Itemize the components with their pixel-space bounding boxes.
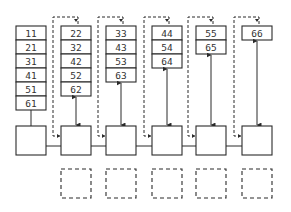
arrowhead-icon (148, 134, 151, 138)
cell-value: 65 (205, 42, 216, 53)
cell-value: 44 (161, 28, 173, 39)
processing-element-box (16, 126, 46, 155)
cell-value: 11 (25, 28, 37, 39)
cell-value: 61 (25, 98, 37, 109)
processing-element-box (152, 126, 182, 155)
dashed-placeholder-box (242, 169, 272, 198)
arrowhead-icon (57, 134, 60, 138)
processing-element-box (106, 126, 136, 155)
arrowhead-icon (238, 134, 241, 138)
cell-value: 55 (205, 28, 216, 39)
processing-element-box (61, 126, 91, 155)
dashed-placeholder-box (61, 169, 91, 198)
column-stack-6: 66 (242, 26, 272, 40)
arrowhead-icon (192, 134, 195, 138)
arrowhead-icon (165, 19, 169, 22)
cell-value: 43 (115, 42, 126, 53)
arrowhead-icon (74, 19, 78, 22)
arrowhead-icon (119, 19, 123, 22)
cell-value: 54 (161, 42, 173, 53)
column-stack-4: 445464 (152, 26, 182, 68)
dashed-box-row (61, 169, 272, 198)
cell-value: 63 (115, 70, 126, 81)
dashed-placeholder-box (152, 169, 182, 198)
cell-value: 41 (25, 70, 37, 81)
cell-value: 66 (251, 28, 263, 39)
cell-value: 64 (161, 56, 173, 67)
cell-value: 51 (25, 84, 37, 95)
dashed-placeholder-box (196, 169, 226, 198)
arrowhead-icon (255, 19, 259, 22)
cell-value: 53 (115, 56, 126, 67)
processing-element-box (196, 126, 226, 155)
arrowhead-icon (102, 134, 105, 138)
cell-value: 32 (70, 42, 81, 53)
column-stack-2: 2232425262 (61, 26, 91, 96)
cell-value: 52 (70, 70, 81, 81)
column-stack-5: 5565 (196, 26, 226, 54)
arrowhead-icon (209, 19, 213, 22)
cell-value: 33 (115, 28, 126, 39)
cell-value: 31 (25, 56, 37, 67)
column-stack-1: 112131415161 (16, 26, 46, 110)
processing-element-box (242, 126, 272, 155)
cell-value: 21 (25, 42, 37, 53)
diagram-canvas: 1121314151612232425262334353634454645565… (0, 0, 291, 212)
cell-value: 22 (70, 28, 81, 39)
column-stack-3: 33435363 (106, 26, 136, 82)
cell-value: 62 (70, 84, 81, 95)
dashed-placeholder-box (106, 169, 136, 198)
cell-value: 42 (70, 56, 81, 67)
